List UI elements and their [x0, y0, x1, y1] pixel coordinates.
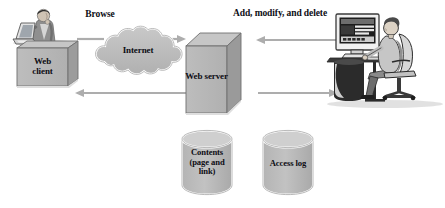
node-web-client: [17, 41, 78, 88]
data-store-contents: [182, 130, 232, 194]
node-internet: [96, 26, 183, 74]
arrow-server-to-admin: [258, 89, 338, 97]
arrow-admin-to-server: [256, 36, 338, 44]
diagram-canvas: [0, 0, 445, 208]
arrow-server-to-client: [75, 89, 186, 97]
actor-administrator: [327, 14, 443, 108]
node-web-server: [186, 33, 241, 115]
data-store-access-log: [263, 130, 313, 194]
web-architecture-diagram: Browse Add, modify, and delete Web clien…: [0, 0, 445, 208]
